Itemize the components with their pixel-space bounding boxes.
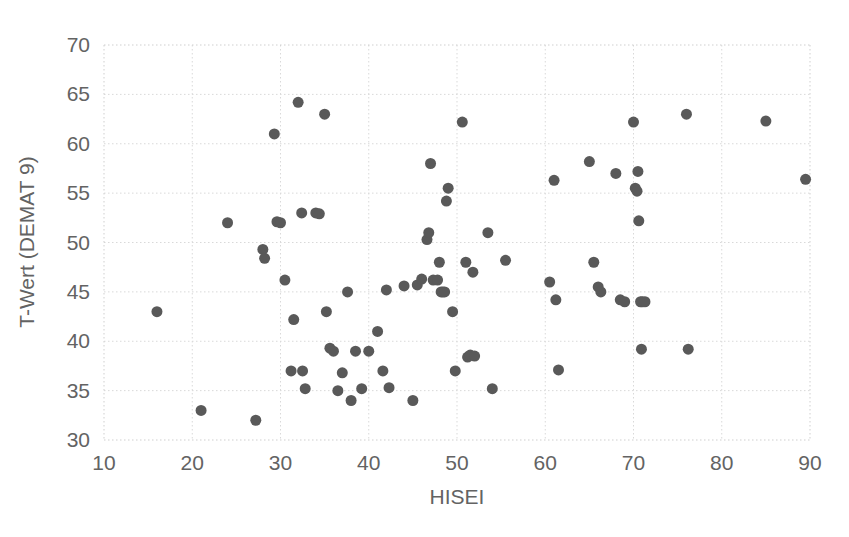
y-tick-label: 55 [67, 181, 90, 204]
data-point [279, 275, 290, 286]
y-tick-label: 45 [67, 280, 90, 303]
data-point [350, 346, 361, 357]
data-point [610, 168, 621, 179]
y-tick-label: 40 [67, 329, 90, 352]
data-point [416, 274, 427, 285]
data-point [487, 383, 498, 394]
data-point [443, 183, 454, 194]
x-tick-label: 70 [622, 451, 645, 474]
data-point [269, 128, 280, 139]
data-point [441, 196, 452, 207]
data-point [588, 257, 599, 268]
data-point [800, 174, 811, 185]
data-point [632, 166, 643, 177]
x-tick-label: 90 [798, 451, 821, 474]
y-tick-label: 60 [67, 132, 90, 155]
data-point [337, 367, 348, 378]
y-axis-tick-labels: 303540455055606570 [67, 33, 90, 451]
y-axis-title: T-Wert (DEMAT 9) [15, 156, 38, 328]
y-tick-label: 65 [67, 82, 90, 105]
x-axis-title: HISEI [430, 485, 485, 508]
data-points [151, 97, 811, 426]
data-point [550, 294, 561, 305]
grid-lines [104, 45, 810, 440]
data-point [549, 175, 560, 186]
data-point [423, 227, 434, 238]
data-point [425, 158, 436, 169]
y-tick-label: 35 [67, 379, 90, 402]
data-point [372, 326, 383, 337]
data-point [222, 217, 233, 228]
data-point [275, 217, 286, 228]
data-point [584, 156, 595, 167]
data-point [296, 207, 307, 218]
data-point [300, 383, 311, 394]
data-point [151, 306, 162, 317]
scatter-chart: 102030405060708090 303540455055606570 HI… [0, 0, 849, 537]
data-point [434, 257, 445, 268]
data-point [447, 306, 458, 317]
data-point [286, 365, 297, 376]
data-point [346, 395, 357, 406]
x-tick-label: 60 [534, 451, 557, 474]
data-point [381, 284, 392, 295]
y-tick-label: 70 [67, 33, 90, 56]
data-point [399, 280, 410, 291]
x-tick-label: 30 [269, 451, 292, 474]
data-point [681, 109, 692, 120]
y-tick-label: 30 [67, 428, 90, 451]
data-point [314, 208, 325, 219]
data-point [319, 109, 330, 120]
data-point [342, 286, 353, 297]
x-tick-label: 20 [181, 451, 204, 474]
data-point [469, 351, 480, 362]
data-point [384, 382, 395, 393]
data-point [500, 255, 511, 266]
data-point [377, 365, 388, 376]
data-point [432, 275, 443, 286]
data-point [363, 346, 374, 357]
data-point [293, 97, 304, 108]
x-tick-label: 80 [710, 451, 733, 474]
data-point [633, 215, 644, 226]
data-point [439, 286, 450, 297]
data-point [250, 415, 261, 426]
data-point [259, 253, 270, 264]
data-point [636, 344, 647, 355]
data-point [288, 314, 299, 325]
data-point [553, 364, 564, 375]
data-point [297, 365, 308, 376]
data-point [332, 385, 343, 396]
data-point [450, 365, 461, 376]
y-tick-label: 50 [67, 231, 90, 254]
data-point [683, 344, 694, 355]
data-point [407, 395, 418, 406]
data-point [639, 296, 650, 307]
data-point [321, 306, 332, 317]
data-point [467, 267, 478, 278]
data-point [760, 116, 771, 127]
x-tick-label: 50 [445, 451, 468, 474]
data-point [356, 383, 367, 394]
x-axis-tick-labels: 102030405060708090 [92, 451, 821, 474]
x-tick-label: 10 [92, 451, 115, 474]
chart-canvas: 102030405060708090 303540455055606570 HI… [0, 0, 849, 537]
data-point [460, 257, 471, 268]
data-point [457, 117, 468, 128]
data-point [196, 405, 207, 416]
data-point [628, 117, 639, 128]
data-point [632, 186, 643, 197]
data-point [619, 296, 630, 307]
data-point [482, 227, 493, 238]
x-tick-label: 40 [357, 451, 380, 474]
data-point [544, 277, 555, 288]
data-point [328, 346, 339, 357]
data-point [595, 286, 606, 297]
